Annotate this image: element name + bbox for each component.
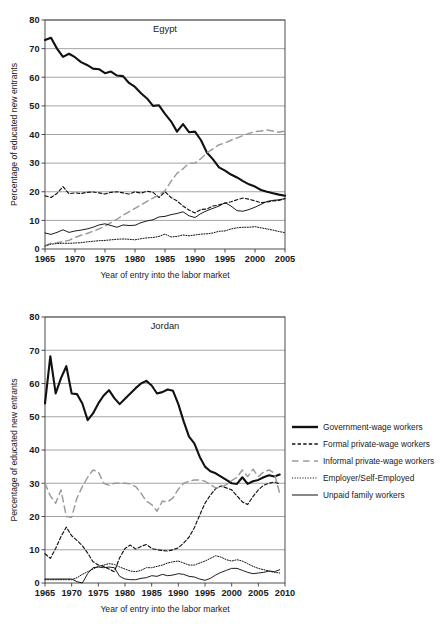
y-tick-label: 10 [29,545,39,555]
x-tick-label: 1990 [168,588,188,598]
x-tick-label: 1980 [125,254,145,264]
y-tick-label: 30 [29,479,39,489]
chart-legend: Government-wage workersFormal private-wa… [292,418,448,503]
x-tick-label: 1985 [155,254,175,264]
y-tick-label: 20 [29,187,39,197]
series-line-informal [45,130,285,246]
chart-svg-egypt: 0102030405060708019651970197519801985199… [0,0,448,306]
x-tick-label: 2005 [248,588,268,598]
x-tick-label: 2005 [275,254,295,264]
legend-swatch-informal-icon [292,455,318,467]
y-tick-label: 60 [29,379,39,389]
series-line-employer [45,556,280,580]
legend-swatch-formal-icon [292,438,318,450]
legend-item-formal[interactable]: Formal private-wage workers [292,435,448,452]
y-tick-label: 0 [34,244,39,254]
x-tick-label: 1975 [88,588,108,598]
x-tick-label: 1995 [195,588,215,598]
legend-item-employer[interactable]: Employer/Self-Employed [292,469,448,486]
x-tick-label: 1985 [141,588,161,598]
legend-label-government: Government-wage workers [323,422,423,432]
chart-panel-egypt: 0102030405060708019651970197519801985199… [0,0,448,306]
x-tick-label: 1965 [35,588,55,598]
figure-page: 0102030405060708019651970197519801985199… [0,0,448,628]
x-tick-label: 1990 [185,254,205,264]
series-line-unpaid [45,567,280,583]
x-tick-label: 1975 [95,254,115,264]
legend-label-formal: Formal private-wage workers [323,439,430,449]
y-tick-label: 50 [29,412,39,422]
legend-label-informal: Informal private-wage workers [323,456,434,466]
panel-title: Egypt [153,23,177,34]
y-axis-title: Percentage of educated new entrants [9,379,19,522]
series-line-employer [45,227,285,246]
y-tick-label: 80 [29,15,39,25]
x-tick-label: 2000 [245,254,265,264]
y-axis-title: Percentage of educated new entrants [9,63,19,206]
legend-label-unpaid: Unpaid family workers [323,490,405,500]
series-line-informal [45,469,280,517]
legend-label-employer: Employer/Self-Employed [323,473,414,483]
x-tick-label: 1965 [35,254,55,264]
legend-swatch-government-icon [292,421,318,433]
x-axis-title: Year of entry into the labor market [100,604,230,614]
legend-item-informal[interactable]: Informal private-wage workers [292,452,448,469]
x-tick-label: 2000 [221,588,241,598]
legend-item-government[interactable]: Government-wage workers [292,418,448,435]
y-tick-label: 50 [29,101,39,111]
series-line-formal [45,482,280,572]
series-line-government [45,356,280,484]
y-tick-label: 30 [29,158,39,168]
y-tick-label: 40 [29,445,39,455]
legend-swatch-employer-icon [292,472,318,484]
y-tick-label: 80 [29,312,39,322]
y-tick-label: 20 [29,512,39,522]
x-tick-label: 1970 [65,254,85,264]
series-line-government [45,38,285,196]
y-tick-label: 70 [29,346,39,356]
y-tick-label: 10 [29,216,39,226]
x-axis-title: Year of entry into the labor market [100,270,230,280]
legend-item-unpaid[interactable]: Unpaid family workers [292,486,448,503]
legend-swatch-unpaid-icon [292,489,318,501]
panel-title: Jordan [151,320,180,331]
x-tick-label: 1995 [215,254,235,264]
x-tick-label: 1970 [61,588,81,598]
y-tick-label: 0 [34,578,39,588]
y-tick-label: 60 [29,73,39,83]
series-line-unpaid [45,199,285,235]
y-tick-label: 70 [29,44,39,54]
y-tick-label: 40 [29,130,39,140]
x-tick-label: 2010 [275,588,295,598]
x-tick-label: 1980 [115,588,135,598]
